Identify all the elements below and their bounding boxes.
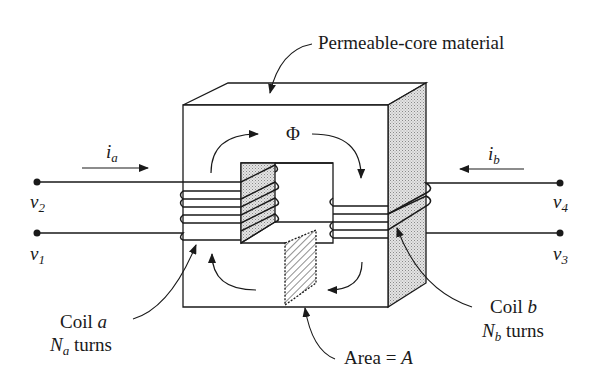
terminal-v2	[34, 179, 41, 186]
core-window-back-edges	[275, 163, 333, 222]
coil-a-label: Coil a	[60, 311, 107, 332]
coil-a-turns-label: Na turns	[49, 334, 112, 358]
area-leader	[305, 308, 335, 359]
voltage-v1-label: v1	[30, 243, 45, 267]
core-material-label: Permeable-core material	[318, 32, 504, 53]
flux-symbol: Φ	[286, 123, 300, 144]
core-top-face	[183, 83, 426, 105]
coil-b-turns-label: Nb turns	[481, 320, 544, 344]
voltage-v3-label: v3	[553, 243, 568, 267]
terminal-v3	[557, 230, 564, 237]
core	[183, 83, 426, 307]
area-label: Area = A	[344, 347, 413, 368]
core-right-face	[388, 83, 426, 307]
voltage-v2-label: v2	[30, 191, 45, 215]
terminals	[34, 179, 564, 237]
core-window-inner-wall	[241, 163, 275, 243]
terminal-v1	[34, 230, 41, 237]
current-b-label: ib	[488, 143, 500, 167]
transformer-diagram: Φ ia ib v2 v1 v4 v3 Permeable-core mater…	[0, 0, 598, 384]
terminal-v4	[557, 180, 564, 187]
voltage-v4-label: v4	[553, 191, 568, 215]
coil-b-label: Coil b	[490, 296, 537, 317]
current-a-label: ia	[106, 141, 118, 165]
